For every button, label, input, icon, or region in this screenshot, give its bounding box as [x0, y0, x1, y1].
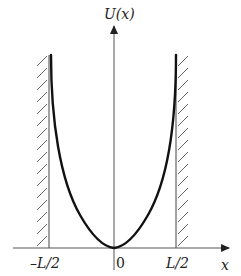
tick-label-right: L/2 [165, 255, 189, 271]
right-wall [176, 55, 188, 248]
potential-well-diagram: U(x) x –L/2 0 L/2 [0, 0, 241, 276]
tick-label-left: –L/2 [30, 255, 60, 271]
x-axis-label: x [221, 257, 229, 273]
tick-label-zero: 0 [116, 255, 125, 271]
left-wall [37, 55, 49, 248]
y-axis-label: U(x) [104, 6, 135, 22]
